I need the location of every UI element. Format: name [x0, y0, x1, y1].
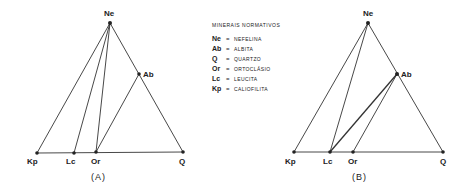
legend-item: Or=ORTOCLÁSIO [212, 64, 280, 74]
label-a-lc: Lc [66, 157, 76, 166]
legend-item: Ab=ALBITA [212, 44, 280, 54]
label-b-ab: Ab [401, 70, 412, 79]
diagram-a-points [35, 21, 185, 155]
legend: MINERAIS NORMATIVOS Ne=NEFELINA Ab=ALBIT… [212, 20, 280, 94]
legend-item: Lc=LEUCITA [212, 74, 280, 84]
label-b-kp: Kp [285, 157, 296, 166]
label-b-lc: Lc [323, 157, 333, 166]
diagram-b-points [292, 21, 445, 154]
diagram-a [37, 23, 183, 153]
legend-item: Ne=NEFELINA [212, 34, 280, 44]
legend-item: Q=QUARTZO [212, 54, 280, 64]
label-a-kp: Kp [27, 157, 38, 166]
legend-title: MINERAIS NORMATIVOS [212, 20, 280, 30]
label-a-or: Or [91, 157, 100, 166]
legend-item: Kp=CALIOFILITA [212, 84, 280, 94]
label-a-ab: Ab [143, 70, 154, 79]
label-b-or: Or [348, 157, 357, 166]
label-a-ne: Ne [104, 9, 115, 18]
caption-a: (A) [91, 172, 106, 182]
label-a-q: Q [179, 157, 185, 166]
diagram-b [294, 23, 443, 152]
caption-b: (B) [352, 172, 367, 182]
label-b-ne: Ne [363, 9, 374, 18]
label-b-q: Q [440, 157, 446, 166]
